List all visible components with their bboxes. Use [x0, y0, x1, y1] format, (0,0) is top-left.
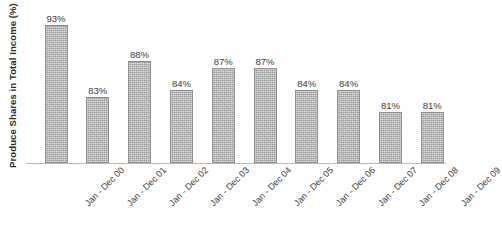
bar	[212, 68, 235, 163]
bar-value-label: 81%	[381, 100, 400, 111]
x-axis-line	[26, 163, 446, 164]
x-axis-label: Jan - Dec 01	[125, 165, 168, 208]
bar-group: 88%	[128, 45, 151, 163]
bar-value-label: 87%	[255, 56, 274, 67]
plot-area: 93%83%88%84%87%87%84%84%81%81%	[26, 0, 451, 164]
bar-group: 87%	[212, 52, 235, 163]
bar	[254, 68, 277, 163]
bar-group: 84%	[295, 74, 318, 163]
bar-group: 81%	[379, 96, 402, 163]
y-axis-title: Produce Shares in Total Income (%)	[0, 0, 24, 170]
bar-value-label: 88%	[130, 49, 149, 60]
bar-group: 84%	[170, 74, 193, 163]
bar	[86, 97, 109, 163]
bar	[421, 112, 444, 163]
bar	[45, 25, 68, 163]
bar	[379, 112, 402, 163]
bar-value-label: 84%	[339, 78, 358, 89]
x-axis-category-labels: Jan - Dec 00Jan - Dec 01Jan - Dec 02Jan …	[26, 165, 451, 230]
x-axis-label: Jan - Dec 05	[292, 165, 335, 208]
x-axis-label: Jan - Dec 02	[167, 165, 210, 208]
bar-group: 83%	[86, 81, 109, 163]
x-axis-label: Jan - Dec 04	[250, 165, 293, 208]
bar	[337, 90, 360, 163]
x-axis-label: Jan - Dec 08	[417, 165, 460, 208]
bar	[295, 90, 318, 163]
x-axis-label: Jan - Dec 09	[459, 165, 502, 208]
bar-value-label: 83%	[88, 85, 107, 96]
bar-value-label: 84%	[297, 78, 316, 89]
bar-value-label: 81%	[423, 100, 442, 111]
bar-value-label: 84%	[172, 78, 191, 89]
bar-group: 93%	[45, 9, 68, 163]
bar-value-label: 93%	[46, 13, 65, 24]
bar	[128, 61, 151, 163]
bar-group: 81%	[421, 96, 444, 163]
bar-value-label: 87%	[214, 56, 233, 67]
y-axis-title-label: Produce Shares in Total Income (%)	[7, 3, 18, 168]
x-axis-label: Jan - Dec 07	[376, 165, 419, 208]
bar-group: 87%	[254, 52, 277, 163]
bar	[170, 90, 193, 163]
x-axis-label: Jan - Dec 06	[334, 165, 377, 208]
x-axis-label: Jan - Dec 00	[83, 165, 126, 208]
x-axis-label: Jan - Dec 03	[208, 165, 251, 208]
bar-group: 84%	[337, 74, 360, 163]
